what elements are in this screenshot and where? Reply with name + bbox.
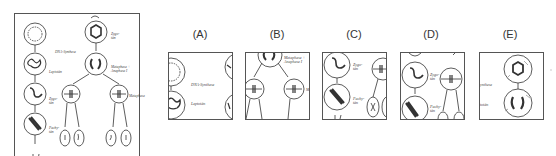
- meiosis-diagram-graphic: [15, 14, 139, 156]
- option-a-crop[interactable]: DNA-Synthese Leptotän: [168, 52, 233, 120]
- label-dna-synthesis: DNA-Synthese: [55, 50, 76, 54]
- crop-e-label-1: ynthese: [480, 83, 492, 87]
- crop-a-label-1: DNA-Synthese: [191, 83, 214, 87]
- label-metaphase-anaphase: Metaphase + Anaphase I: [111, 65, 130, 73]
- option-e-crop[interactable]: ynthese totän: [479, 52, 544, 120]
- option-label-a: (A): [180, 28, 220, 40]
- crop-d-label-2: Pachy- tän: [430, 105, 441, 113]
- option-b-crop[interactable]: Metaphase + Anaphase I Meta: [245, 52, 310, 120]
- meiosis-figure: DNA-Synthese Leptotän Zygo- tän Pachy- t…: [14, 13, 140, 156]
- crop-a-label-2: Leptotän: [191, 102, 205, 106]
- label-zygotene-right: Zygo- tän: [111, 32, 119, 40]
- option-label-c: (C): [334, 28, 374, 40]
- crop-c-label-1: Zygo- tän: [353, 63, 362, 71]
- stray-mark: [550, 69, 552, 71]
- label-leptotene: Leptotän: [49, 70, 62, 74]
- label-metaphase: Metaphase: [129, 94, 145, 98]
- option-label-e: (E): [490, 28, 530, 40]
- crop-b-label-1: Metaphase + Anaphase I: [284, 56, 305, 64]
- crop-e-label-2: totän: [480, 103, 488, 107]
- crop-d-label-1: Zygo- tän: [430, 73, 439, 81]
- crop-b-label-2: Meta: [306, 88, 310, 92]
- label-pachytene: Pachy- tän: [49, 126, 59, 134]
- label-zygotene-left: Zygo- tän: [49, 97, 57, 105]
- option-label-d: (D): [411, 28, 451, 40]
- option-d-crop[interactable]: Zygo- tän Pachy- tän: [400, 52, 465, 120]
- crop-c-label-2: Pachy- tän: [353, 97, 364, 105]
- option-c-crop[interactable]: Zygo- tän Pachy- tän: [322, 52, 387, 120]
- option-label-b: (B): [257, 28, 297, 40]
